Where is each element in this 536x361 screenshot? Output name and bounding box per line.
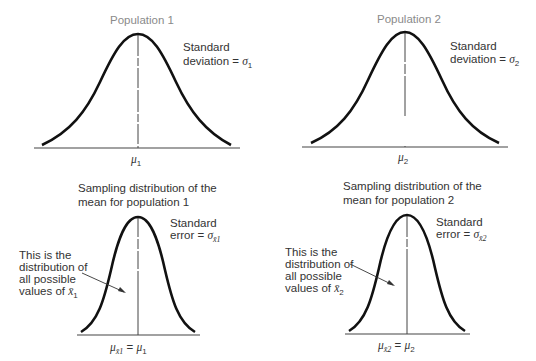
pop1-mean-label: μ1 xyxy=(131,152,141,171)
samp1-mean-label: μx̄1 = μ1 xyxy=(110,340,147,359)
arrow-samp1 xyxy=(82,273,124,292)
pop1-std-label-line2: deviation = σ1 xyxy=(183,54,252,73)
samp2-title-line2: mean for population 2 xyxy=(343,193,454,207)
samp1-title-line2: mean for population 1 xyxy=(78,195,189,209)
pop2-mean-label: μ2 xyxy=(398,150,408,169)
arrowhead-samp2 xyxy=(387,280,395,286)
pop2-std-label-line2: deviation = σ2 xyxy=(450,52,519,71)
samp1-se-label-line2: error = σx̄1 xyxy=(170,228,221,247)
samp2-title-line1: Sampling distribution of the xyxy=(343,179,482,193)
samp1-title-line1: Sampling distribution of the xyxy=(78,181,217,195)
arrow-samp2 xyxy=(350,264,393,285)
pop2-std-label-line1: Standard xyxy=(450,39,497,53)
pop2-title: Population 2 xyxy=(377,12,441,26)
pop1-title: Population 1 xyxy=(110,13,174,27)
samp2-mean-label: μx̄2 = μ2 xyxy=(378,338,415,357)
samp2-se-label-line2: error = σx̄2 xyxy=(436,227,487,246)
pop1-std-label-line1: Standard xyxy=(183,40,230,54)
arrowhead-samp1 xyxy=(118,287,126,293)
samp1-note-line4: values of x̄1 xyxy=(19,284,78,303)
samp2-note-line4: values of x̄2 xyxy=(285,281,344,300)
